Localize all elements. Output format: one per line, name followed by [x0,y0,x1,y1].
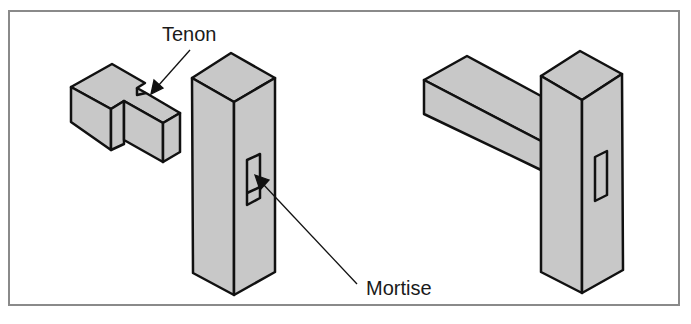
tenon-label: Tenon [162,24,217,44]
joint-diagram [0,0,691,324]
assembled-joint [424,51,623,293]
mortise-leader-line [263,184,357,284]
mortised-post [192,53,275,295]
tenon-leader-line [158,50,190,86]
mortise-label: Mortise [366,278,432,298]
